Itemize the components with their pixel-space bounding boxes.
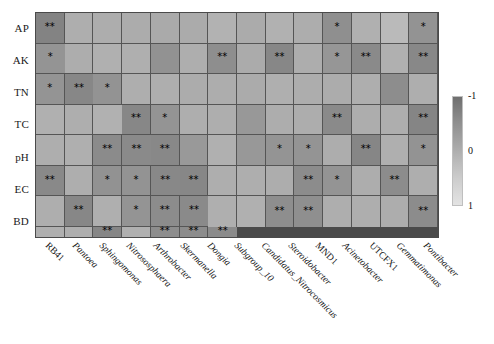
heatmap-cell bbox=[122, 227, 151, 237]
significance-marker: ** bbox=[45, 22, 55, 32]
heatmap-cell: * bbox=[36, 44, 65, 75]
significance-marker: ** bbox=[389, 175, 399, 185]
heatmap-cell bbox=[237, 74, 266, 105]
heatmap-cell bbox=[381, 44, 410, 75]
x-axis-label-slot: Gemmatimonas bbox=[385, 239, 412, 339]
x-axis-label-slot: Subgroup_10 bbox=[224, 239, 251, 339]
heatmap-cell bbox=[122, 74, 151, 105]
heatmap-cell: ** bbox=[208, 44, 237, 75]
heatmap-cell: * bbox=[151, 105, 180, 136]
x-axis-label-slot: MND1 bbox=[304, 239, 331, 339]
significance-marker: ** bbox=[45, 175, 55, 185]
heatmap-cell: ** bbox=[180, 166, 209, 197]
x-axis-label-slot: Nitrososphaera bbox=[116, 239, 143, 339]
heatmap-cell bbox=[381, 105, 410, 136]
y-axis-label-tc: TC bbox=[0, 109, 33, 141]
heatmap-cell bbox=[266, 13, 295, 44]
heatmap-cell bbox=[237, 196, 266, 227]
heatmap-cell bbox=[65, 135, 94, 166]
heatmap-cell bbox=[151, 44, 180, 75]
heatmap-cell: ** bbox=[294, 166, 323, 197]
heatmap-cell bbox=[208, 166, 237, 197]
heatmap-cell: ** bbox=[151, 135, 180, 166]
heatmap-cell bbox=[93, 13, 122, 44]
x-axis-label-slot: Pontibacter bbox=[412, 239, 439, 339]
heatmap-cell: * bbox=[93, 166, 122, 197]
significance-marker: ** bbox=[102, 144, 112, 154]
heatmap-cell bbox=[36, 227, 65, 237]
significance-marker: * bbox=[277, 144, 282, 154]
heatmap-cell bbox=[323, 196, 352, 227]
significance-marker: ** bbox=[160, 226, 170, 236]
heatmap-cell: ** bbox=[266, 44, 295, 75]
heatmap-cell bbox=[180, 105, 209, 136]
heatmap-cell: ** bbox=[180, 227, 209, 237]
significance-marker: ** bbox=[131, 113, 141, 123]
heatmap-cell bbox=[352, 105, 381, 136]
heatmap-cell bbox=[409, 74, 438, 105]
significance-marker: ** bbox=[160, 144, 170, 154]
significance-marker: ** bbox=[303, 206, 313, 216]
x-axis-label-slot: RB41 bbox=[35, 239, 62, 339]
heatmap-cell bbox=[122, 44, 151, 75]
heatmap-cell bbox=[65, 44, 94, 75]
colorbar-tick-label: -1 bbox=[468, 91, 476, 101]
x-axis-label: Pontibacter bbox=[421, 241, 459, 279]
y-axis-label-ph: pH bbox=[0, 141, 33, 173]
significance-marker: ** bbox=[189, 205, 199, 215]
heatmap-cell: * bbox=[122, 166, 151, 197]
heatmap-cell bbox=[36, 135, 65, 166]
significance-marker: ** bbox=[217, 52, 227, 62]
significance-marker: ** bbox=[332, 113, 342, 123]
colorbar-gradient bbox=[452, 96, 463, 206]
heatmap-cell bbox=[294, 74, 323, 105]
heatmap-cell bbox=[381, 196, 410, 227]
heatmap-cell bbox=[294, 105, 323, 136]
heatmap-cell: * bbox=[323, 44, 352, 75]
significance-marker: ** bbox=[275, 206, 285, 216]
heatmap-cell bbox=[294, 44, 323, 75]
colorbar-container: -101 bbox=[452, 96, 494, 208]
x-axis-labels: RB41PantoeaSphingomonasNitrososphaeraArt… bbox=[35, 239, 439, 339]
heatmap-cell: ** bbox=[294, 196, 323, 227]
heatmap-cell bbox=[65, 105, 94, 136]
heatmap-cell: * bbox=[122, 196, 151, 227]
significance-marker: * bbox=[133, 205, 138, 215]
significance-marker: ** bbox=[418, 52, 428, 62]
heatmap-cell: ** bbox=[323, 105, 352, 136]
significance-marker: ** bbox=[275, 52, 285, 62]
heatmap-cell: ** bbox=[151, 196, 180, 227]
heatmap-cell bbox=[36, 105, 65, 136]
heatmap-cell: ** bbox=[122, 105, 151, 136]
heatmap-cell bbox=[180, 74, 209, 105]
y-axis-label-ec: EC bbox=[0, 173, 33, 205]
heatmap-cell bbox=[208, 74, 237, 105]
significance-marker: ** bbox=[160, 205, 170, 215]
heatmap-cell: ** bbox=[65, 196, 94, 227]
heatmap-cell bbox=[237, 105, 266, 136]
heatmap-cell: ** bbox=[208, 227, 237, 237]
significance-marker: * bbox=[105, 83, 110, 93]
heatmap-cell: * bbox=[323, 13, 352, 44]
y-axis-label-bd: BD bbox=[0, 206, 33, 238]
heatmap-cell bbox=[237, 166, 266, 197]
heatmap-cell: ** bbox=[36, 166, 65, 197]
colorbar-tick-label: 0 bbox=[468, 146, 473, 156]
heatmap-cell: ** bbox=[352, 135, 381, 166]
significance-marker: * bbox=[162, 113, 167, 123]
significance-marker: ** bbox=[361, 144, 371, 154]
x-axis-label-slot: Skermanella bbox=[170, 239, 197, 339]
y-axis-label-ap: AP bbox=[0, 12, 33, 44]
x-axis-label-slot: UTCFX1 bbox=[358, 239, 385, 339]
heatmap-cell bbox=[266, 105, 295, 136]
heatmap-cell bbox=[65, 227, 94, 237]
heatmap-cell: ** bbox=[409, 105, 438, 136]
heatmap-cell: * bbox=[93, 74, 122, 105]
heatmap-cell: ** bbox=[180, 196, 209, 227]
heatmap-cell bbox=[180, 135, 209, 166]
heatmap-cell: * bbox=[36, 74, 65, 105]
heatmap-cell: ** bbox=[93, 135, 122, 166]
heatmap-cell bbox=[323, 135, 352, 166]
y-axis-labels: APAKTNTCpHECBD bbox=[0, 12, 33, 238]
significance-marker: * bbox=[306, 144, 311, 154]
